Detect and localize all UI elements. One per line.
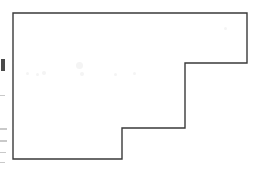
ghost-mark-4 — [76, 62, 83, 69]
ghost-mark-7 — [133, 72, 136, 75]
ghost-mark-3 — [42, 71, 46, 75]
figure-root: Rectilinear staircase polygon outline — [0, 0, 254, 174]
ghost-mark-1 — [26, 72, 29, 75]
ghost-mark-5 — [80, 72, 84, 76]
ghost-mark-6 — [114, 73, 117, 76]
left-margin-mark-1 — [1, 59, 5, 71]
left-margin-mark-2 — [0, 95, 5, 96]
left-margin-mark-4 — [0, 140, 7, 142]
polygon-figure-canvas — [0, 0, 254, 174]
left-margin-mark-3 — [0, 128, 7, 130]
ghost-mark-8 — [224, 27, 227, 30]
left-margin-mark-6 — [0, 162, 5, 163]
left-margin-mark-5 — [0, 152, 6, 153]
ghost-mark-2 — [36, 73, 39, 76]
